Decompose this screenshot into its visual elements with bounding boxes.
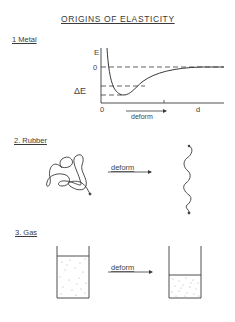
zero-label: 0 (93, 63, 97, 72)
gas-deform-label: deform (111, 263, 134, 272)
x-axis-label: d (196, 105, 200, 114)
gas-particles-initial (60, 259, 87, 296)
rubber-deform-label: deform (111, 163, 134, 172)
y-axis-label: E (94, 48, 99, 57)
delta-e-label: ΔE (74, 86, 86, 96)
arrow-head-icon (163, 109, 167, 113)
origin-label: 0 (100, 105, 104, 114)
potential-energy-curve (107, 48, 224, 95)
metal-energy-graph (101, 48, 224, 113)
arrow-head-icon (148, 170, 152, 174)
elasticity-diagram: E 0 ΔE 0 d deform deform deform (0, 0, 235, 322)
gas-particles-compressed (172, 278, 200, 297)
gas-container-initial (57, 246, 89, 298)
rubber-coiled-chain (47, 155, 91, 195)
rubber-stretched-chain (184, 145, 192, 214)
gas-container-compressed (169, 246, 201, 298)
arrow-head-icon (149, 270, 153, 274)
metal-deform-label: deform (131, 113, 153, 120)
